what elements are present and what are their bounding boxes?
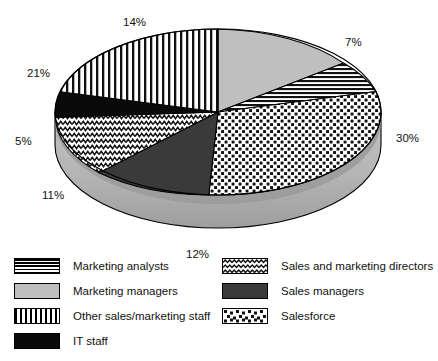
pie-label-marketing-analysts: 7% [345,36,362,48]
legend-swatch-vertical-lines-icon [14,308,60,324]
legend-label: Sales and marketing directors [281,260,433,272]
legend-swatch-horizontal-lines-icon [14,258,60,274]
pie-label-salesforce: 30% [396,132,419,144]
legend-item-sales-managers[interactable]: Sales managers [222,279,433,303]
legend-label: Marketing managers [73,285,178,297]
legend-swatch-solid-black-icon [14,333,60,349]
legend-item-marketing-analysts[interactable]: Marketing analysts [14,254,210,278]
legend-swatch-zigzag-icon [222,258,268,274]
chart-legend: Marketing analysts Marketing managers Ot… [0,254,438,361]
legend-swatch-solid-gray-icon [14,283,60,299]
legend-item-sales-marketing-directors[interactable]: Sales and marketing directors [222,254,433,278]
legend-label: IT staff [73,335,108,347]
pie-label-sales-marketing-directors: 11% [42,189,64,201]
legend-column-right: Sales and marketing directors Sales mana… [222,254,433,329]
pie-label-marketing-managers: 14% [123,16,146,28]
pie-label-other-sales-marketing-staff: 21% [27,67,50,79]
legend-label: Sales managers [281,285,364,297]
legend-label: Other sales/marketing staff [73,310,210,322]
pie-label-it-staff: 5% [15,135,32,147]
legend-item-marketing-managers[interactable]: Marketing managers [14,279,210,303]
pie-slices [55,29,381,195]
legend-item-it-staff[interactable]: IT staff [14,329,210,353]
legend-swatch-dots-icon [222,308,268,324]
legend-item-other-sales-marketing-staff[interactable]: Other sales/marketing staff [14,304,210,328]
legend-label: Salesforce [281,310,335,322]
legend-column-left: Marketing analysts Marketing managers Ot… [14,254,210,354]
pie-chart-figure: 14% 7% 30% 12% 11% 5% 21% Marketing anal… [0,0,438,361]
legend-item-salesforce[interactable]: Salesforce [222,304,433,328]
legend-swatch-solid-dark-gray-icon [222,283,268,299]
legend-label: Marketing analysts [73,260,169,272]
